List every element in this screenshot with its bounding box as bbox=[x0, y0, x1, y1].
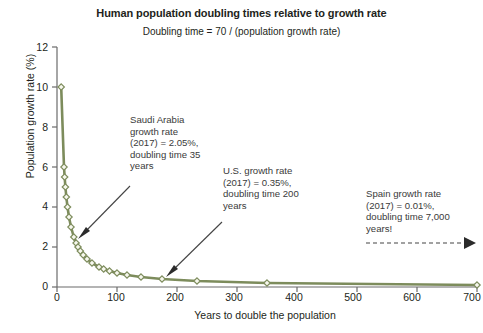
data-point bbox=[58, 84, 64, 90]
data-point bbox=[114, 270, 120, 276]
data-point bbox=[138, 274, 144, 280]
data-point bbox=[61, 164, 67, 170]
y-axis-ticks bbox=[52, 47, 57, 287]
data-point bbox=[64, 204, 70, 210]
data-point bbox=[61, 174, 67, 180]
data-line bbox=[61, 87, 477, 285]
arrow-saudi-arabia bbox=[78, 186, 130, 239]
data-point bbox=[68, 224, 74, 230]
axis-lines bbox=[57, 47, 478, 287]
data-point bbox=[63, 194, 69, 200]
plot-area bbox=[0, 0, 483, 333]
x-axis-ticks bbox=[57, 287, 477, 292]
data-point bbox=[194, 278, 200, 284]
arrow-us bbox=[166, 222, 222, 277]
data-point bbox=[159, 276, 165, 282]
data-point bbox=[264, 280, 270, 286]
data-point bbox=[62, 184, 68, 190]
data-point bbox=[66, 214, 72, 220]
arrow-spain-dashed bbox=[366, 237, 476, 249]
data-markers bbox=[58, 84, 480, 288]
chart-container: Human population doubling times relative… bbox=[0, 0, 483, 333]
data-point bbox=[124, 272, 130, 278]
